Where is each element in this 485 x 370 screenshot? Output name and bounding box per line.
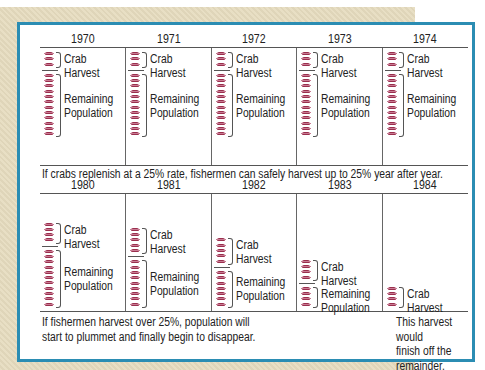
crab-icon [302,116,310,119]
crab-icon [131,132,139,135]
crab-harvest-group-label: CrabHarvest [407,287,443,315]
bottom-row: 1980 1981 1982 1983 1984 CrabHarvestRema… [40,177,468,312]
crab-harvest-group-label: CrabHarvest [150,228,186,256]
diagram-panel: 1970 1971 1972 1973 1974 CrabHarvestRema… [17,22,475,362]
label-line: Crab [321,52,357,66]
crab-icon [45,276,53,279]
top-row: 1970 1971 1972 1973 1974 CrabHarvestRema… [40,31,468,166]
crab-stack: CrabHarvestRemainingPopulation [130,228,140,308]
caption-line: finish off the [396,344,458,359]
bottom-caption-right: This harvest would finish off the remain… [396,315,458,370]
label-line: Population [64,106,113,120]
crab-icon [131,238,139,241]
crab-icon [131,233,139,236]
crab-icon [45,111,53,114]
year-header-row: 1980 1981 1982 1983 1984 [40,177,468,194]
crab-icon [217,57,225,60]
brace-icon [142,74,147,138]
crab-stack: CrabHarvestRemainingPopulation [44,52,54,138]
crab-harvest-group: CrabHarvest [387,52,467,68]
crab-icon [45,122,53,125]
crab-icon [131,249,139,252]
crab-icon [302,297,310,300]
label-line: Crab [64,52,100,66]
crab-icon [388,74,396,77]
remaining-population-group-label: RemainingPopulation [407,92,456,120]
crab-icon [302,90,310,93]
crab-harvest-group: CrabHarvest [301,260,381,281]
remaining-population-group-label: RemainingPopulation [64,265,113,293]
crab-icon [217,63,225,66]
crab-harvest-group: CrabHarvest [216,238,296,265]
crab-icon [131,90,139,93]
crab-harvest-group: CrabHarvest [130,228,210,255]
label-line: Population [321,301,370,315]
crab-icon [388,303,396,306]
label-line: Population [150,284,199,298]
crab-icon [45,287,53,290]
year-cell-1981: CrabHarvestRemainingPopulation [125,194,211,311]
crab-icon [388,106,396,109]
crab-icon [388,297,396,300]
crab-icon [45,223,53,226]
crab-icon [131,287,139,290]
crab-icon [131,228,139,231]
caption-line: remainder. [396,359,458,370]
label-line: Crab [321,260,357,274]
label-line: Population [407,106,456,120]
crab-icon [217,79,225,82]
remaining-population-group-label: RemainingPopulation [150,92,199,120]
crab-harvest-group: CrabHarvest [130,52,210,68]
brace-icon [228,271,233,308]
label-line: Remaining [407,92,456,106]
year-cell-1970: CrabHarvestRemainingPopulation [40,48,125,165]
year-label: 1984 [389,177,462,193]
brace-icon [56,223,61,244]
crab-icon [131,84,139,87]
crab-icon [45,292,53,295]
brace-icon [399,52,404,68]
crab-icon [302,303,310,306]
crab-icons [44,52,54,68]
crab-icon [302,79,310,82]
crab-icon [388,116,396,119]
crab-icon [45,297,53,300]
crab-icon [302,132,310,135]
crab-icon [131,79,139,82]
crab-icon [45,95,53,98]
crab-icon [131,116,139,119]
label-line: Population [150,106,199,120]
crab-harvest-group: CrabHarvest [44,223,124,244]
label-line: Harvest [407,301,443,315]
crab-icons [130,228,140,254]
crab-icon [388,127,396,130]
crab-icon [302,106,310,109]
crab-icon [131,276,139,279]
crab-harvest-group-label: CrabHarvest [236,238,272,266]
crab-icon [45,90,53,93]
crab-icon [217,127,225,130]
remaining-population-group: RemainingPopulation [44,74,124,138]
crab-icon [217,287,225,290]
brace-icon [56,52,61,68]
label-line: Crab [236,238,272,252]
crab-icon [388,100,396,103]
remaining-population-group: RemainingPopulation [301,287,381,308]
crab-icon [45,266,53,269]
crab-icon [45,52,53,55]
crab-icon [45,303,53,306]
harvest-divider [385,70,401,71]
crab-icons [301,260,311,281]
remaining-population-group: RemainingPopulation [301,74,381,138]
crab-icon [217,84,225,87]
remaining-population-group: RemainingPopulation [387,74,467,138]
year-header-row: 1970 1971 1972 1973 1974 [40,31,468,48]
crab-icons [301,52,311,68]
crab-stack: CrabHarvestRemainingPopulation [44,223,54,309]
label-line: Remaining [150,270,199,284]
brace-icon [142,52,147,68]
population-cells: CrabHarvestRemainingPopulationCrabHarves… [40,194,468,312]
crab-icon [131,244,139,247]
crab-icon [217,282,225,285]
brace-icon [56,250,61,308]
